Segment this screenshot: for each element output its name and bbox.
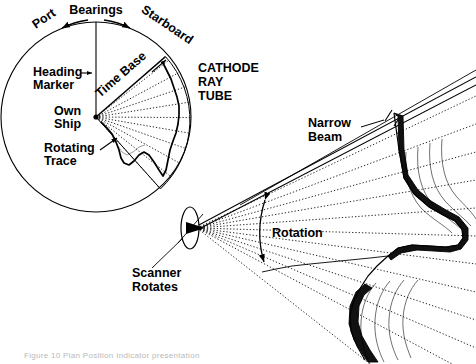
label-tube: TUBE — [198, 89, 232, 103]
label-rotating-trace-line1: Rotating — [44, 141, 95, 155]
label-rotating-trace-line2: Trace — [44, 154, 77, 168]
narrow-beam-pointer — [361, 120, 384, 127]
echo-contours-upper — [406, 139, 476, 233]
label-heading-marker-line2: Marker — [33, 78, 74, 92]
label-ray: RAY — [198, 75, 224, 89]
label-cathode: CATHODE — [198, 61, 259, 75]
figure-caption: Figure 10 Plan Position Indicator presen… — [24, 351, 200, 360]
label-narrow-beam-line1: Narrow — [308, 116, 351, 130]
label-own-ship-line1: Own — [54, 104, 81, 118]
label-heading-marker-line1: Heading — [33, 65, 82, 79]
narrow-beam-edge-top — [240, 70, 476, 205]
scanner-leader — [152, 238, 183, 268]
coastline-outline-left — [262, 256, 388, 272]
figure-canvas: Bearings Port Starboard Heading Marker O… — [0, 0, 476, 364]
own-ship-origin-dot — [93, 114, 98, 119]
label-rotation: Rotation — [272, 226, 323, 240]
label-bearings: Bearings — [69, 3, 123, 17]
label-scanner-line1: Scanner — [132, 266, 181, 280]
label-port: Port — [29, 5, 58, 31]
label-own-ship-line2: Ship — [54, 117, 81, 131]
figure-caption-strip: Figure 10 Plan Position Indicator presen… — [0, 350, 476, 364]
radar-ppi-diagram: Bearings Port Starboard Heading Marker O… — [0, 0, 476, 364]
coastline-outline — [350, 113, 463, 360]
ppi-scope-group: Bearings Port Starboard Heading Marker O… — [1, 2, 259, 212]
coastline-ribbon-upper — [388, 113, 468, 260]
label-scanner-line2: Rotates — [132, 280, 178, 294]
label-narrow-beam-line2: Beam — [308, 130, 342, 144]
